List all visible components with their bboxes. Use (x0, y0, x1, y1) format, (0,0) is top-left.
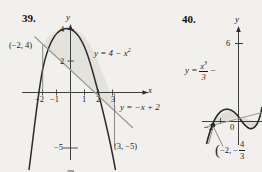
y-axis-label-40: y (235, 15, 239, 24)
equation-line-39: y = −x + 2 (120, 103, 160, 112)
y-tick-label-4: 4 (60, 25, 64, 34)
point-label-3-neg5: (3, −5) (114, 142, 137, 151)
y-axis-arrow-40 (236, 26, 241, 32)
equation-cubic-40: y = x3 3 − (185, 60, 216, 82)
x-tick-label--2: −2 (35, 95, 44, 104)
point-label-x: −2, (220, 146, 231, 155)
equation-cubic-fraction: x3 3 (199, 60, 208, 82)
figure-40: 40. y 6 (168, 0, 262, 172)
x-tick-label-0-40: 0 (230, 123, 234, 132)
x-tick-label--2-40: −2 (204, 123, 213, 132)
figure-39: 39. (0, 0, 170, 172)
equation-parabola-exponent: 2 (128, 47, 131, 53)
equation-cubic-exponent: 3 (204, 60, 207, 66)
x-axis-label-39: x (148, 86, 152, 95)
y-tick-label-2: 2 (60, 57, 64, 66)
equation-cubic-lhs: y = (185, 66, 197, 75)
point-label-numerator: 4 (239, 140, 245, 149)
figure-page: 39. (0, 0, 262, 172)
point-label-minus: − (233, 146, 238, 155)
equation-cubic-tail: − (210, 66, 216, 75)
y-axis-label-39: y (66, 13, 70, 22)
x-tick-label-1: 1 (82, 95, 86, 104)
y-tick-label-6-40: 6 (226, 39, 230, 48)
equation-parabola-text: y = 4 − x (94, 48, 128, 58)
equation-parabola-39: y = 4 − x2 (94, 47, 131, 58)
point-label-denominator: 3 (239, 152, 245, 161)
equation-cubic-denominator: 3 (201, 73, 207, 82)
x-tick-label-2: 2 (96, 95, 100, 104)
x-tick-label--1: −1 (50, 95, 59, 104)
x-tick-label-3: 3 (111, 95, 115, 104)
equation-cubic-numerator: x3 (199, 60, 208, 70)
point-label-neg2-4: (−2, 4) (9, 41, 32, 50)
point-label-fraction: 4 3 (239, 140, 245, 160)
point-label-neg2-neg4-3: ( −2, − 4 3 (215, 140, 246, 160)
figure-39-plot (0, 0, 170, 172)
y-tick-label--5: −5 (54, 143, 63, 152)
